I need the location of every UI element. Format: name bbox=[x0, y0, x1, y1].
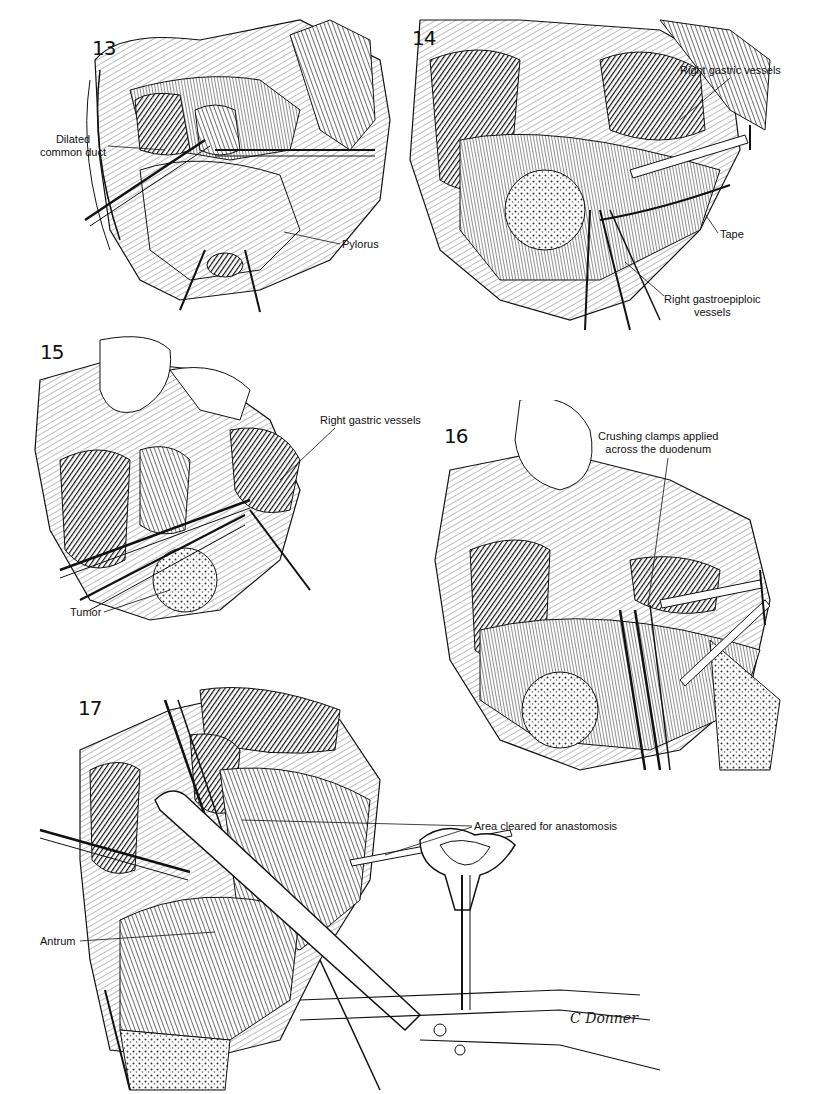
label-crushing-clamps: Crushing clamps applied across the duode… bbox=[598, 430, 718, 456]
label-tumor: Tumor bbox=[70, 606, 101, 619]
label-dilated-common-duct: Dilated common duct bbox=[40, 133, 106, 159]
figure-17: 17 Area cleared for anastomosis Antrum C… bbox=[0, 660, 815, 1094]
figure-15: 15 Right gastric vessels Tumor bbox=[0, 330, 420, 640]
figure-14-illustration bbox=[400, 0, 815, 340]
figure-number: 15 bbox=[40, 340, 63, 364]
figure-number: 14 bbox=[412, 26, 435, 50]
figure-14: 14 Right gastric vessels Tape Right gast… bbox=[400, 0, 815, 340]
label-right-gastroepiploic-vessels: Right gastroepiploic vessels bbox=[664, 293, 761, 319]
artist-signature: C Donner bbox=[570, 1010, 638, 1026]
figure-13: 13 Dilated common duct Pylorus bbox=[0, 0, 400, 320]
label-right-gastric-vessels: Right gastric vessels bbox=[320, 414, 421, 427]
label-pylorus: Pylorus bbox=[342, 238, 379, 251]
figure-13-illustration bbox=[0, 0, 400, 320]
figure-number: 17 bbox=[78, 696, 101, 720]
label-tape: Tape bbox=[720, 228, 744, 241]
label-antrum: Antrum bbox=[40, 935, 75, 948]
figure-number: 13 bbox=[92, 36, 115, 60]
figure-number: 16 bbox=[444, 424, 467, 448]
figure-15-illustration bbox=[0, 330, 420, 640]
label-area-cleared-for-anastomosis: Area cleared for anastomosis bbox=[474, 820, 617, 833]
figure-17-illustration bbox=[0, 660, 815, 1094]
label-right-gastric-vessels: Right gastric vessels bbox=[680, 64, 781, 77]
